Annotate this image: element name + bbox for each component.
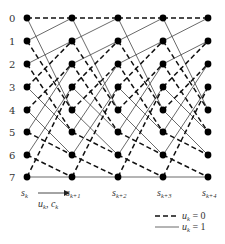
transition-edge-u1 xyxy=(27,87,72,132)
state-node xyxy=(205,174,212,181)
state-node xyxy=(24,61,31,68)
state-label: 2 xyxy=(9,59,15,70)
state-node xyxy=(205,61,212,68)
state-label: 6 xyxy=(9,150,15,161)
state-node xyxy=(160,174,167,181)
state-node xyxy=(69,107,76,114)
transition-edge-u1 xyxy=(163,87,208,132)
state-node xyxy=(115,38,122,45)
state-node xyxy=(115,84,122,91)
state-node xyxy=(160,61,167,68)
state-node xyxy=(115,152,122,159)
state-node xyxy=(205,129,212,136)
state-node xyxy=(205,107,212,114)
state-node xyxy=(69,174,76,181)
transition-edge-u0 xyxy=(163,41,208,87)
state-node xyxy=(24,152,31,159)
transition-edge-u0 xyxy=(118,41,163,110)
trellis-diagram: 01234567 sksk+1sk+2sk+3sk+4 uk, ck uk = … xyxy=(0,0,225,244)
transition-edge-u0 xyxy=(27,155,72,177)
transition-edge-u0 xyxy=(163,132,208,155)
transition-label: uk, ck xyxy=(38,198,58,210)
state-node xyxy=(160,107,167,114)
state-node xyxy=(205,38,212,45)
state-node xyxy=(115,129,122,136)
state-node xyxy=(24,129,31,136)
state-node xyxy=(160,84,167,91)
state-node xyxy=(115,174,122,181)
state-node xyxy=(69,38,76,45)
trellis-nodes xyxy=(24,15,212,181)
transition-edge-u0 xyxy=(27,41,72,87)
state-node xyxy=(24,38,31,45)
transition-edge-u1 xyxy=(72,87,118,132)
state-node xyxy=(205,152,212,159)
state-node xyxy=(69,15,76,22)
state-node xyxy=(115,107,122,114)
state-node xyxy=(69,61,76,68)
transition-edge-u0 xyxy=(72,41,118,110)
state-node xyxy=(24,174,31,181)
state-label: 3 xyxy=(9,82,15,93)
transition-edge-u0 xyxy=(27,64,72,110)
state-label: 5 xyxy=(9,127,15,138)
transition-edge-u0 xyxy=(27,87,72,177)
transition-edge-u0 xyxy=(72,87,118,177)
transition-edge-u0 xyxy=(27,132,72,155)
state-label: 0 xyxy=(9,13,15,24)
transition-edge-u0 xyxy=(163,64,208,110)
transition-edge-u0 xyxy=(72,64,118,110)
state-node xyxy=(24,107,31,114)
transition-edge-u1 xyxy=(118,18,163,41)
transition-edge-u1 xyxy=(163,41,208,64)
state-node xyxy=(160,15,167,22)
legend: uk = 0 uk = 1 xyxy=(155,210,206,233)
state-node xyxy=(69,129,76,136)
state-label: 1 xyxy=(9,36,15,47)
transition-edge-u0 xyxy=(72,155,118,177)
transition-edge-u1 xyxy=(72,41,118,64)
state-node xyxy=(205,84,212,91)
state-label: 4 xyxy=(9,105,15,116)
transition-edge-u0 xyxy=(118,132,163,155)
state-node xyxy=(115,61,122,68)
transition-edge-u1 xyxy=(27,41,72,64)
stage-label: sk+3 xyxy=(157,187,172,199)
transition-edge-u1 xyxy=(118,41,163,64)
state-node xyxy=(205,15,212,22)
transition-edge-u0 xyxy=(118,87,163,177)
transition-edge-u0 xyxy=(118,41,163,87)
state-node xyxy=(24,15,31,22)
state-node xyxy=(160,152,167,159)
transition-edge-u1 xyxy=(163,18,208,41)
state-label: 7 xyxy=(9,172,15,183)
stage-label: sk+2 xyxy=(112,187,127,199)
transition-edge-u0 xyxy=(27,41,72,110)
transition-edge-u1 xyxy=(72,18,118,41)
transition-edge-u0 xyxy=(163,41,208,110)
legend-item-solid: uk = 1 xyxy=(155,221,206,233)
state-node xyxy=(160,129,167,136)
stage-label: sk xyxy=(21,187,28,199)
transition-edge-u1 xyxy=(118,87,163,132)
state-node xyxy=(24,84,31,91)
transition-edge-u0 xyxy=(163,87,208,177)
transition-edge-u0 xyxy=(72,41,118,87)
transition-edge-u0 xyxy=(72,132,118,155)
state-node xyxy=(69,152,76,159)
state-labels: 01234567 xyxy=(9,13,15,183)
state-node xyxy=(115,15,122,22)
transition-edge-u0 xyxy=(118,64,163,110)
transition-edge-u0 xyxy=(163,155,208,177)
state-node xyxy=(69,84,76,91)
transition-edge-u0 xyxy=(118,155,163,177)
transition-edge-u1 xyxy=(27,18,72,41)
svg-text:uk = 1: uk = 1 xyxy=(182,221,206,233)
stage-label: sk+4 xyxy=(202,187,217,199)
transition-arrow xyxy=(38,190,70,196)
state-node xyxy=(160,38,167,45)
